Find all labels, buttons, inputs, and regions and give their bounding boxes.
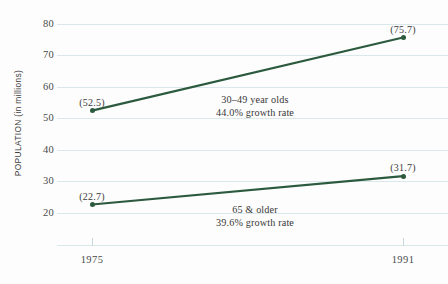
xtick-mark-1991 xyxy=(403,238,404,246)
ytick-label-40: 40 xyxy=(28,144,54,155)
series-annotation-30-49: 30–49 year olds 44.0% growth rate xyxy=(180,93,330,119)
chart-screenshot: 80 70 60 50 40 30 20 POPULATION (in mill… xyxy=(0,0,448,284)
ytick-label-60: 60 xyxy=(28,81,54,92)
ytick-label-80: 80 xyxy=(28,18,54,29)
data-label-30-49-1975: (52.5) xyxy=(69,97,115,108)
data-label-65-older-1991: (31.7) xyxy=(380,162,426,173)
series-annotation-65-older: 65 & older 39.6% growth rate xyxy=(180,203,330,229)
y-axis-title: POPULATION (in millions) xyxy=(13,63,23,183)
data-label-30-49-1991: (75.7) xyxy=(380,24,426,35)
ytick-label-30: 30 xyxy=(28,175,54,186)
series-lines xyxy=(0,0,448,284)
ytick-label-70: 70 xyxy=(28,49,54,60)
xtick-label-1991: 1991 xyxy=(379,254,427,265)
ytick-label-20: 20 xyxy=(28,207,54,218)
series-annotation-65-older-line2: 39.6% growth rate xyxy=(180,216,330,229)
data-point-65-older-1991[interactable] xyxy=(401,174,406,179)
plot-area: 80 70 60 50 40 30 20 POPULATION (in mill… xyxy=(0,0,448,284)
gridline-60 xyxy=(57,87,448,88)
xtick-label-1975: 1975 xyxy=(68,254,116,265)
gridline-40 xyxy=(57,150,448,151)
data-label-65-older-1975: (22.7) xyxy=(69,191,115,202)
data-point-30-49-1991[interactable] xyxy=(401,35,406,40)
x-axis-line xyxy=(57,245,448,246)
series-annotation-65-older-line1: 65 & older xyxy=(180,203,330,216)
ytick-label-50: 50 xyxy=(28,112,54,123)
data-point-65-older-1975[interactable] xyxy=(90,202,95,207)
gridline-70 xyxy=(57,55,448,56)
series-annotation-30-49-line2: 44.0% growth rate xyxy=(180,106,330,119)
gridline-30 xyxy=(57,181,448,182)
series-annotation-30-49-line1: 30–49 year olds xyxy=(180,93,330,106)
xtick-mark-1975 xyxy=(92,238,93,246)
data-point-30-49-1975[interactable] xyxy=(90,108,95,113)
